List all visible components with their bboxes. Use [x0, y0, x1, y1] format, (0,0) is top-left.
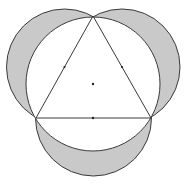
midpoint-left-dot [63, 66, 65, 68]
lunes-diagram [0, 0, 187, 186]
midpoint-bottom-dot [92, 117, 94, 119]
midpoint-right-dot [121, 66, 123, 68]
center-dot [92, 83, 94, 85]
